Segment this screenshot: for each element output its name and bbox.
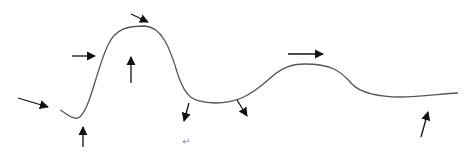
arrow-9-icon (421, 112, 428, 137)
arrow-7-icon (237, 100, 247, 116)
arrow-6-icon (184, 103, 189, 121)
arrow-group (18, 14, 428, 147)
arrow-5-icon (131, 14, 148, 22)
arrow-1-icon (18, 98, 48, 107)
wave-curve (60, 26, 458, 118)
wave-curve-diagram (0, 0, 469, 157)
paragraph-mark: ↵ (182, 136, 190, 147)
